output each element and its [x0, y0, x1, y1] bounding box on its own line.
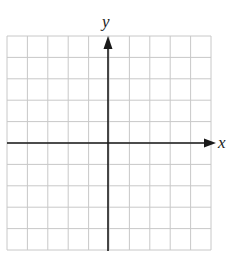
y-axis-label: y	[100, 12, 110, 31]
x-axis-label: x	[217, 133, 226, 152]
x-axis-arrow-icon	[204, 139, 216, 148]
y-axis-arrow-icon	[104, 36, 113, 49]
coordinate-grid: x y	[0, 0, 228, 254]
